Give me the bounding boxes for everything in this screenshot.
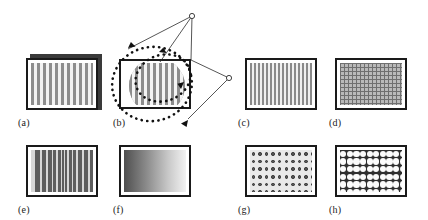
lattice-circle [373, 166, 379, 172]
lattice-dot [258, 183, 262, 187]
chirp-bar [61, 150, 62, 192]
panel-h-label: (h) [329, 204, 341, 215]
panel-d-label: (d) [329, 117, 341, 128]
lattice-dot [258, 175, 262, 179]
viewpoint-vertex-lower [226, 75, 231, 80]
lattice-dot [278, 190, 282, 192]
lattice-circle [393, 181, 399, 187]
panel-b-frame [119, 59, 191, 109]
lattice-dot [271, 190, 275, 192]
arrowhead-outer-top-left [128, 42, 136, 48]
lattice-dot [285, 152, 289, 156]
lattice-dot [304, 152, 308, 156]
panel-a [26, 58, 98, 110]
chirp-bar [56, 150, 57, 192]
lattice-circle [400, 158, 403, 164]
lattice-dot [291, 167, 295, 171]
lattice-dot [291, 190, 295, 192]
lattice-circle [373, 181, 379, 187]
lattice-dot [285, 183, 289, 187]
lattice-dot [271, 160, 275, 164]
lattice-circle [393, 151, 399, 157]
lattice-circle [380, 189, 386, 192]
lattice-circle [353, 189, 359, 192]
lattice-dot [298, 175, 302, 179]
lattice-dot [271, 175, 275, 179]
texture-fine-vertical-bars [250, 63, 312, 105]
lattice-dot [252, 152, 256, 156]
lattice-dot [311, 175, 312, 179]
lattice-circle [393, 166, 399, 172]
lattice-circle [400, 174, 403, 180]
lattice-circle [360, 158, 366, 164]
lattice-circle [353, 166, 359, 172]
chirp-bar [72, 150, 73, 192]
lattice-circle [367, 158, 373, 164]
lattice-circle [340, 151, 346, 157]
lattice-circle [353, 158, 359, 164]
panel-e-label: (e) [18, 204, 30, 215]
lattice-dot [258, 167, 262, 171]
texture-dark-dot-lattice [250, 150, 312, 192]
lattice-dot [265, 175, 269, 179]
lattice-dot [291, 183, 295, 187]
lattice-circle [380, 158, 386, 164]
lattice-dot [311, 160, 312, 164]
lattice-circle [367, 166, 373, 172]
lattice-dot [271, 183, 275, 187]
panel-e-inner [31, 150, 93, 192]
lattice-dot [285, 190, 289, 192]
lattice-dot [278, 160, 282, 164]
chirp-bar [88, 150, 90, 192]
lattice-circle [347, 174, 353, 180]
ray-upper-left [128, 16, 192, 49]
chirp-bar [40, 150, 42, 192]
lattice-circle [360, 181, 366, 187]
lattice-circle [353, 151, 359, 157]
lattice-dot [278, 167, 282, 171]
lattice-circle [400, 151, 403, 157]
texture-light-circle-lattice [340, 150, 402, 192]
lattice-dot [278, 175, 282, 179]
panel-c-frame [245, 58, 317, 110]
panel-a-inner [31, 63, 93, 105]
lattice-dot [291, 152, 295, 156]
lattice-circle [347, 166, 353, 172]
lattice-dot [304, 190, 308, 192]
lattice-circle [386, 166, 392, 172]
lattice-circle [380, 174, 386, 180]
panel-e-frame [26, 145, 98, 197]
lattice-dot [252, 167, 256, 171]
arrowhead-inner-top [159, 48, 167, 53]
lattice-dot [258, 190, 262, 192]
chirp-bar [64, 150, 65, 192]
viewpoint-vertex-upper [189, 13, 194, 18]
lattice-dot [304, 175, 308, 179]
lattice-dot [258, 160, 262, 164]
lattice-dot [258, 152, 262, 156]
lattice-circle [380, 166, 386, 172]
figure-canvas: (a) (b) [0, 0, 428, 220]
lattice-dot [285, 167, 289, 171]
lattice-circle [340, 174, 346, 180]
lattice-dot [265, 167, 269, 171]
lattice-circle [353, 174, 359, 180]
panel-b [119, 59, 191, 109]
lattice-dot [252, 183, 256, 187]
lattice-circle [373, 151, 379, 157]
lattice-dot [304, 167, 308, 171]
lattice-dot [285, 175, 289, 179]
lattice-dot [252, 190, 256, 192]
lattice-circle [393, 174, 399, 180]
panel-b-label: (b) [113, 117, 125, 128]
lattice-circle [380, 181, 386, 187]
lattice-dot [311, 183, 312, 187]
panel-f-inner [124, 150, 186, 192]
lattice-circle [360, 151, 366, 157]
texture-fine-grid [340, 63, 402, 105]
panel-g [245, 145, 317, 197]
lattice-circle [400, 189, 403, 192]
panel-a-label: (a) [18, 117, 30, 128]
texture-lens-vertical-bars [129, 63, 185, 105]
arrowhead-outer-bottom-right [181, 120, 188, 127]
